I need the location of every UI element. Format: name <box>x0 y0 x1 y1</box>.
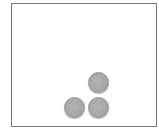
game-piece[interactable] <box>88 97 109 118</box>
game-piece[interactable] <box>64 97 85 118</box>
game-piece[interactable] <box>88 72 109 93</box>
